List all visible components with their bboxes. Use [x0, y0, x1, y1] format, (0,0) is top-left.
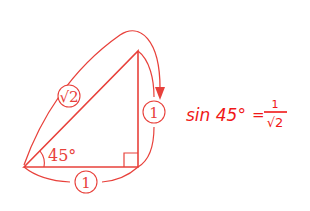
formula-denominator: √2 [267, 115, 284, 130]
right-angle-marker [124, 153, 138, 167]
vertical-side-label: 1 [149, 104, 159, 122]
formula-numerator: 1 [272, 98, 279, 111]
formula-lhs: sin 45° [186, 105, 246, 125]
arrow-head-icon [155, 87, 165, 100]
angle-label: 45° [48, 146, 76, 165]
base-label: 1 [81, 174, 91, 192]
formula-equals: = [252, 106, 265, 124]
angle-arc [40, 151, 44, 167]
hypotenuse-label: √2 [59, 88, 78, 106]
triangle-diagram: √2 1 1 45° sin 45° = 1 √2 [0, 0, 310, 211]
